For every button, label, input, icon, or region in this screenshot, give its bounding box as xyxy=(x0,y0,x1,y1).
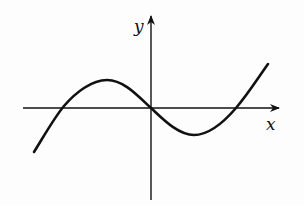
function-graph: y x xyxy=(0,0,304,205)
x-axis-label: x xyxy=(266,114,276,134)
y-axis-label: y xyxy=(133,16,144,36)
